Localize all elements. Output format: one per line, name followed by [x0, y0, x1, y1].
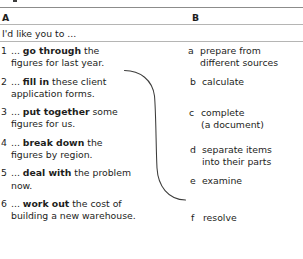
item-number: 6 — [1, 198, 7, 210]
item-letter: b — [190, 76, 196, 88]
item-suffix: these client — [49, 76, 106, 87]
item-line-2: into their parts — [202, 156, 272, 168]
item-phrasal-verb: deal with — [23, 167, 72, 178]
item-prefix: ... — [11, 106, 23, 117]
item-phrasal-verb: go through — [23, 45, 81, 56]
list-item[interactable]: d separate items into their parts — [190, 144, 272, 168]
item-number: 4 — [1, 137, 7, 149]
header-rule-bottom — [0, 41, 303, 42]
header-rule-top — [0, 7, 303, 8]
list-item[interactable]: 1 ... go through the figures for last ye… — [0, 45, 160, 69]
column-header-b: B — [192, 13, 199, 22]
item-line-2: application forms. — [11, 88, 160, 100]
item-number: 5 — [1, 167, 7, 179]
item-line-1: ... fill in these client — [11, 76, 160, 88]
list-item[interactable]: b calculate — [190, 76, 244, 88]
item-phrasal-verb: work out — [23, 198, 69, 209]
item-letter: f — [191, 212, 194, 224]
list-item[interactable]: a prepare from different sources — [188, 45, 278, 69]
item-line-1: ... go through the — [11, 45, 160, 57]
item-line-2: figures for us. — [11, 118, 160, 130]
list-item[interactable]: 4 ... break down the figures by region. — [0, 137, 160, 161]
item-line-1: ... deal with the problem — [11, 167, 160, 179]
item-line-1: examine — [202, 175, 242, 187]
item-prefix: ... — [11, 198, 23, 209]
item-line-1: separate items — [202, 144, 272, 156]
item-line-1: complete — [201, 107, 264, 119]
item-letter: e — [190, 175, 196, 187]
item-line-2: building a new warehouse. — [11, 210, 160, 222]
item-phrasal-verb: put together — [23, 106, 90, 117]
item-number: 3 — [1, 106, 7, 118]
item-prefix: ... — [11, 76, 23, 87]
matching-exercise-page: A B I'd like you to ... 1 ... go through… — [0, 0, 303, 259]
item-letter: d — [190, 144, 196, 156]
list-item[interactable]: 5 ... deal with the problem now. — [0, 167, 160, 191]
item-line-1: ... work out the cost of — [11, 198, 160, 210]
item-line-2: figures for last year. — [11, 57, 160, 69]
item-suffix: some — [90, 106, 118, 117]
column-a-list: 1 ... go through the figures for last ye… — [0, 45, 160, 229]
item-line-1: ... break down the — [11, 137, 160, 149]
item-number: 2 — [1, 76, 7, 88]
item-line-1: ... put together some — [11, 106, 160, 118]
list-item[interactable]: f resolve — [191, 212, 237, 224]
item-phrasal-verb: break down — [23, 137, 85, 148]
item-line-2: now. — [11, 180, 160, 192]
item-suffix: the — [81, 45, 99, 56]
item-prefix: ... — [11, 167, 23, 178]
item-line-1: resolve — [203, 212, 237, 224]
item-letter: a — [188, 45, 194, 57]
item-suffix: the problem — [71, 167, 131, 178]
list-item[interactable]: 2 ... fill in these client application f… — [0, 76, 160, 100]
list-item[interactable]: e examine — [190, 175, 242, 187]
item-line-1: prepare from — [200, 45, 278, 57]
item-prefix: ... — [11, 45, 23, 56]
item-suffix: the — [84, 137, 102, 148]
item-line-1: calculate — [202, 76, 244, 88]
item-prefix: ... — [11, 137, 23, 148]
item-line-2: (a document) — [201, 119, 264, 131]
cropped-bullet-mark — [13, 0, 17, 2]
item-phrasal-verb: fill in — [23, 76, 49, 87]
list-item[interactable]: 3 ... put together some figures for us. — [0, 106, 160, 130]
list-item[interactable]: 6 ... work out the cost of building a ne… — [0, 198, 160, 222]
column-header-a: A — [2, 13, 9, 22]
header-rule-middle — [0, 24, 303, 25]
item-suffix: the cost of — [69, 198, 121, 209]
item-letter: c — [189, 107, 194, 119]
item-line-2: different sources — [200, 57, 278, 69]
list-item[interactable]: c complete (a document) — [189, 107, 264, 131]
item-line-2: figures by region. — [11, 149, 160, 161]
instruction-text: I'd like you to ... — [2, 29, 76, 38]
item-number: 1 — [1, 45, 7, 57]
